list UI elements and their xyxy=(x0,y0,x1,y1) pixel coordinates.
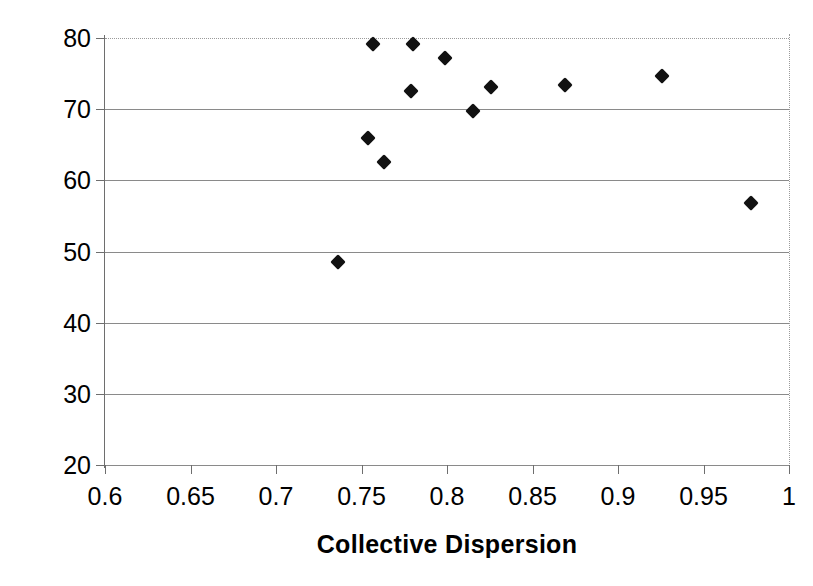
x-tick-mark-0.95 xyxy=(704,465,705,474)
gridline-y-80 xyxy=(105,38,789,39)
x-tick-mark-0.6 xyxy=(105,465,106,474)
plot-area: 20304050607080 0.60.650.70.750.80.850.90… xyxy=(105,38,789,465)
data-point xyxy=(484,79,500,95)
y-tick-mark-30 xyxy=(96,394,105,395)
y-tick-label-50: 50 xyxy=(63,237,91,266)
data-point xyxy=(361,131,377,147)
x-tick-label-0.65: 0.65 xyxy=(166,482,215,511)
data-point xyxy=(744,195,760,211)
y-tick-mark-60 xyxy=(96,180,105,181)
x-tick-label-1: 1 xyxy=(782,482,796,511)
x-tick-label-0.7: 0.7 xyxy=(259,482,294,511)
y-axis-title-text: Collective Fitness xyxy=(0,184,3,402)
y-tick-mark-20 xyxy=(96,465,105,466)
x-tick-label-0.6: 0.6 xyxy=(88,482,123,511)
data-point xyxy=(557,77,573,93)
y-tick-mark-70 xyxy=(96,109,105,110)
data-point xyxy=(655,69,671,85)
y-tick-mark-80 xyxy=(96,38,105,39)
data-point xyxy=(465,103,481,119)
y-tick-label-20: 20 xyxy=(63,451,91,480)
x-tick-label-0.9: 0.9 xyxy=(601,482,636,511)
data-point xyxy=(403,83,419,99)
gridline-y-40 xyxy=(105,323,789,324)
x-tick-label-0.75: 0.75 xyxy=(337,482,386,511)
x-tick-mark-0.9 xyxy=(618,465,619,474)
y-tick-label-40: 40 xyxy=(63,308,91,337)
y-tick-label-70: 70 xyxy=(63,95,91,124)
x-tick-mark-0.7 xyxy=(276,465,277,474)
data-point xyxy=(330,254,346,270)
x-tick-label-0.8: 0.8 xyxy=(430,482,465,511)
y-tick-label-80: 80 xyxy=(63,24,91,53)
x-tick-label-0.95: 0.95 xyxy=(679,482,728,511)
gridline-y-70 xyxy=(105,109,789,110)
plot-right-border xyxy=(789,34,790,468)
data-point xyxy=(376,154,392,170)
scatter-plot-figure: Collective Fitness 20304050607080 0.60.6… xyxy=(0,0,813,586)
x-tick-label-0.85: 0.85 xyxy=(508,482,557,511)
x-tick-mark-0.75 xyxy=(362,465,363,474)
y-tick-label-30: 30 xyxy=(63,379,91,408)
x-axis-title: Collective Dispersion xyxy=(105,530,789,559)
y-tick-mark-50 xyxy=(96,252,105,253)
x-tick-mark-1 xyxy=(789,465,790,474)
x-tick-mark-0.85 xyxy=(533,465,534,474)
gridline-y-30 xyxy=(105,394,789,395)
y-tick-label-60: 60 xyxy=(63,166,91,195)
gridline-y-50 xyxy=(105,252,789,253)
y-tick-mark-40 xyxy=(96,323,105,324)
x-tick-mark-0.8 xyxy=(447,465,448,474)
data-point xyxy=(438,50,454,66)
x-tick-mark-0.65 xyxy=(191,465,192,474)
gridline-y-60 xyxy=(105,180,789,181)
